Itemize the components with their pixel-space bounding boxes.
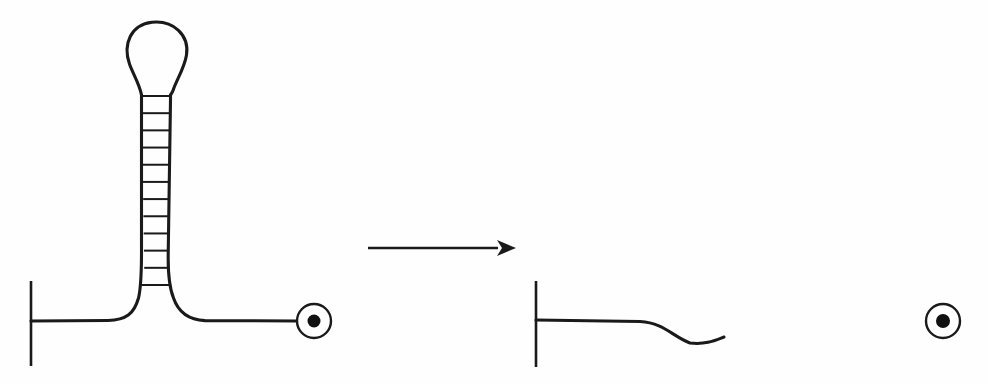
folded-backbone-right bbox=[168, 95, 297, 321]
folded-bead-terminus bbox=[297, 304, 331, 338]
unfolded-strand-panel bbox=[536, 281, 960, 367]
diagram-canvas bbox=[0, 0, 988, 384]
transition-arrow bbox=[368, 240, 516, 256]
stem-base-pair-rungs bbox=[141, 96, 170, 285]
terminus-dot bbox=[308, 315, 321, 328]
figure-root: RNA hairpin (stem-loop) unfolding into a… bbox=[0, 0, 988, 384]
terminus-dot bbox=[936, 314, 950, 328]
arrow-head-icon bbox=[497, 240, 516, 256]
unfolded-bead-terminus bbox=[926, 304, 960, 338]
folded-hairpin-panel bbox=[31, 22, 331, 366]
unfolded-backbone bbox=[536, 320, 724, 343]
hairpin-loop-outline bbox=[127, 22, 187, 95]
folded-backbone-left bbox=[31, 95, 142, 321]
